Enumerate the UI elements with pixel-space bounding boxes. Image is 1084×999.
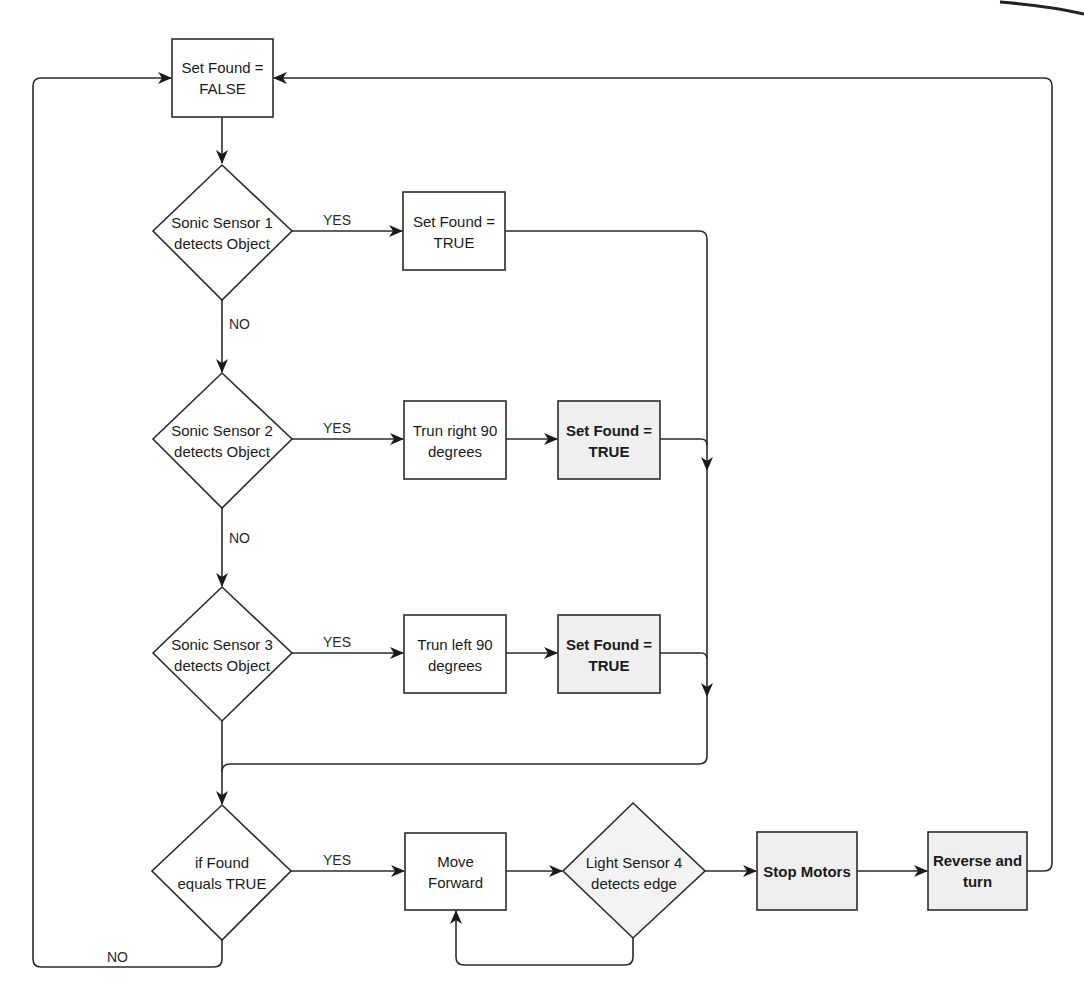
node-label: Set Found = <box>181 59 263 76</box>
node-set-found-false[interactable]: Set Found = FALSE <box>172 39 273 117</box>
node-label: Trun left 90 <box>417 636 492 653</box>
node-label: if Found <box>195 854 249 871</box>
flowchart-canvas: Set Found = FALSE Sonic Sensor 1 detects… <box>0 0 1084 999</box>
decision-diamond <box>152 805 291 940</box>
node-label: TRUE <box>589 443 630 460</box>
node-label: FALSE <box>199 80 246 97</box>
node-label: Forward <box>428 874 483 891</box>
node-label: Reverse and <box>933 852 1022 869</box>
node-label: turn <box>963 873 992 890</box>
node-sonic-sensor-2[interactable]: Sonic Sensor 2 detects Object <box>153 373 292 508</box>
node-label: degrees <box>428 443 482 460</box>
process-box <box>403 192 505 270</box>
node-set-found-true-2[interactable]: Set Found = TRUE <box>558 401 660 479</box>
node-set-found-true-3[interactable]: Set Found = TRUE <box>558 615 660 693</box>
node-turn-left[interactable]: Trun left 90 degrees <box>404 615 506 693</box>
process-box <box>404 401 506 479</box>
node-label: Trun right 90 <box>413 422 498 439</box>
node-if-found[interactable]: if Found equals TRUE <box>152 805 291 940</box>
node-label: detects Object <box>174 443 271 460</box>
process-box <box>404 615 506 693</box>
edge-label-iffound-no: NO <box>107 949 128 965</box>
page-edge-artifact <box>1000 2 1084 14</box>
node-label: Sonic Sensor 3 <box>171 636 273 653</box>
node-label: degrees <box>428 657 482 674</box>
node-label: Set Found = <box>566 422 652 439</box>
node-set-found-true-1[interactable]: Set Found = TRUE <box>403 192 505 270</box>
node-label: Move <box>437 853 474 870</box>
node-sonic-sensor-3[interactable]: Sonic Sensor 3 detects Object <box>153 587 292 721</box>
process-box <box>172 39 273 117</box>
process-box <box>558 401 660 479</box>
node-label: Set Found = <box>413 213 495 230</box>
node-stop-motors[interactable]: Stop Motors <box>757 832 857 910</box>
edge-true3-to-bus <box>660 653 707 659</box>
decision-diamond <box>153 587 292 721</box>
edge-reverse-to-start <box>274 78 1052 871</box>
node-label: TRUE <box>434 234 475 251</box>
node-label: Stop Motors <box>763 863 851 880</box>
process-box <box>928 832 1027 910</box>
node-move-forward[interactable]: Move Forward <box>405 833 506 910</box>
node-turn-right[interactable]: Trun right 90 degrees <box>404 401 506 479</box>
edge-bus-to-merge <box>222 696 707 772</box>
node-label: Sonic Sensor 1 <box>171 214 273 231</box>
edge-true2-to-bus <box>660 439 707 445</box>
edge-light-to-move <box>456 911 633 965</box>
node-label: Sonic Sensor 2 <box>171 422 273 439</box>
node-sonic-sensor-1[interactable]: Sonic Sensor 1 detects Object <box>153 165 292 300</box>
node-label: equals TRUE <box>178 875 267 892</box>
node-label: Light Sensor 4 <box>586 854 683 871</box>
node-label: Set Found = <box>566 636 652 653</box>
edge-label-sonic1-yes: YES <box>323 212 351 228</box>
node-label: detects Object <box>174 657 271 674</box>
edge-label-sonic2-yes: YES <box>323 420 351 436</box>
edge-label-sonic2-no: NO <box>229 530 250 546</box>
node-label: TRUE <box>589 657 630 674</box>
process-box <box>558 615 660 693</box>
edge-label-sonic3-yes: YES <box>323 634 351 650</box>
node-reverse-and-turn[interactable]: Reverse and turn <box>928 832 1027 910</box>
decision-diamond <box>153 373 292 508</box>
node-label: detects Object <box>174 235 271 252</box>
decision-diamond <box>153 165 292 300</box>
process-box <box>405 833 506 910</box>
edge-label-sonic1-no: NO <box>229 316 250 332</box>
node-label: detects edge <box>591 875 677 892</box>
edge-label-iffound-yes: YES <box>323 852 351 868</box>
node-light-sensor-4[interactable]: Light Sensor 4 detects edge <box>563 803 705 938</box>
